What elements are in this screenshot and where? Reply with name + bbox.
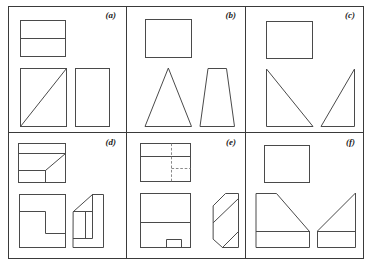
side-view-outline [74, 195, 104, 248]
panel-d-top-view [19, 144, 66, 183]
top-view-outline [141, 144, 191, 182]
panel-e-side-view [214, 194, 239, 248]
front-view-right-triangle [267, 70, 313, 127]
front-view-triangle [146, 69, 192, 127]
panel-label-e: (e) [226, 137, 236, 147]
front-view-step-notch-line [20, 212, 66, 234]
panel-e-top-view [141, 144, 191, 182]
panel-e-front-view [141, 194, 191, 248]
top-view-outline [267, 22, 313, 59]
front-view-diagonal-line [21, 69, 67, 127]
panel-label-a: (a) [106, 10, 117, 20]
panel-b-side-view [201, 69, 235, 127]
panel-c-top-view [267, 22, 313, 59]
top-view-outline [265, 146, 310, 183]
side-view-outline [318, 194, 356, 248]
figure-frame [9, 7, 364, 259]
side-view-diagonal-line-lower [223, 232, 239, 248]
panel-d-side-view [74, 195, 104, 248]
panel-b-top-view [146, 20, 192, 58]
panel-a-side-view [76, 69, 110, 127]
panel-d: (d) [19, 137, 117, 248]
panel-label-c: (c) [345, 10, 355, 20]
side-view-outline [76, 69, 110, 127]
panel-a-front-view [21, 69, 67, 127]
panel-c-front-view [267, 70, 313, 127]
orthographic-projection-figure: (a) (b) (c) [0, 0, 370, 265]
figure-root: (a) (b) (c) [0, 0, 370, 265]
side-view-trapezoid [201, 69, 235, 127]
panel-d-front-view [20, 195, 66, 248]
front-view-outline [20, 195, 66, 248]
top-view-diagonal-line [46, 154, 66, 171]
panel-a: (a) [21, 10, 117, 127]
panel-label-f: (f) [346, 137, 355, 147]
side-view-step-line [74, 195, 93, 239]
panel-c: (c) [267, 10, 356, 127]
panel-e: (e) [141, 137, 239, 248]
front-view-outline [257, 194, 310, 248]
panel-f-top-view [265, 146, 310, 183]
front-view-outline [141, 194, 191, 248]
top-view-outline [146, 20, 192, 58]
panel-label-d: (d) [106, 137, 117, 147]
side-view-right-triangle [322, 70, 355, 127]
panel-f-front-view [257, 194, 310, 248]
panel-b: (b) [146, 10, 237, 127]
top-view-outline [19, 144, 66, 183]
panel-b-front-view [146, 69, 192, 127]
front-view-notch-line [167, 240, 182, 248]
panel-f-side-view [318, 194, 356, 248]
panel-a-top-view [21, 21, 66, 57]
panel-label-b: (b) [226, 10, 237, 20]
panel-f: (f) [257, 137, 356, 248]
panel-c-side-view [322, 70, 355, 127]
